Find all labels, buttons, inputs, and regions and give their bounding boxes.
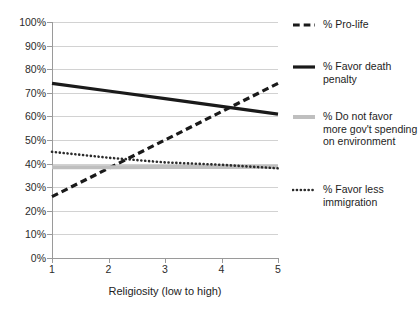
legend-item-4[interactable]: % Favor less immigration <box>292 183 418 208</box>
x-axis-tick-label: 5 <box>263 264 293 275</box>
x-axis-tick-label: 4 <box>207 264 237 275</box>
y-axis-tick-label: 90% <box>4 40 46 51</box>
x-axis-tick-label: 3 <box>150 264 180 275</box>
y-axis-tick-label: 10% <box>4 229 46 240</box>
series-line-1 <box>52 83 278 196</box>
solid-line-marker <box>292 60 316 74</box>
y-axis-tick-label: 0% <box>4 253 46 264</box>
legend-label: % Pro-life <box>323 18 369 31</box>
y-axis-tick-label: 60% <box>4 111 46 122</box>
legend-item-1[interactable]: % Pro-life <box>292 18 369 32</box>
y-axis-tick-label: 70% <box>4 88 46 99</box>
x-axis-title: Religiosity (low to high) <box>52 285 278 297</box>
legend-label: % Do not favor more gov't spending on en… <box>323 110 418 148</box>
gray-line-marker <box>292 110 316 124</box>
y-axis-tick-label: 40% <box>4 158 46 169</box>
line-chart: 0%10%20%30%40%50%60%70%80%90%100% 12345 … <box>0 0 418 315</box>
y-axis-tick-label: 100% <box>4 17 46 28</box>
data-series-layer <box>52 22 278 258</box>
dashed-line-marker <box>292 18 316 32</box>
y-axis-tick-label: 50% <box>4 135 46 146</box>
x-axis-tick-label: 2 <box>94 264 124 275</box>
y-axis-tick-label: 30% <box>4 182 46 193</box>
legend-label: % Favor less immigration <box>323 183 418 208</box>
y-axis-tick-label: 80% <box>4 64 46 75</box>
x-axis-tick-label: 1 <box>37 264 67 275</box>
legend-item-2[interactable]: % Favor death penalty <box>292 60 418 85</box>
dotted-line-marker <box>292 183 316 197</box>
legend-item-3[interactable]: % Do not favor more gov't spending on en… <box>292 110 418 148</box>
legend-label: % Favor death penalty <box>323 60 418 85</box>
y-axis-tick-label: 20% <box>4 206 46 217</box>
